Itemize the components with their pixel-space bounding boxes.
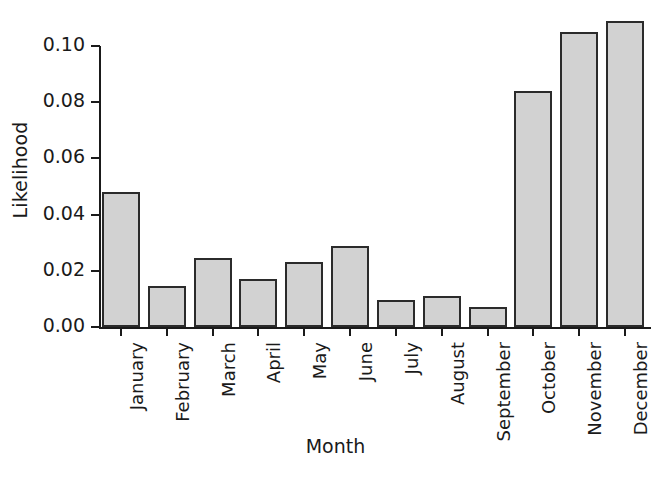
y-axis-tick-label: 0.06 — [43, 146, 85, 166]
bar — [469, 307, 507, 327]
bar — [606, 21, 644, 327]
x-axis-category-label: October — [540, 342, 558, 414]
x-axis-category-label: June — [357, 342, 375, 381]
bar — [285, 262, 323, 327]
x-axis-tick — [624, 328, 626, 336]
y-axis-label-container: Likelihood — [0, 0, 40, 340]
plot-area: 0.000.020.040.060.080.10 JanuaryFebruary… — [100, 46, 650, 327]
x-axis-category-label: January — [128, 342, 146, 410]
bar — [560, 32, 598, 327]
x-axis-tick — [303, 328, 305, 336]
x-axis-category-label: August — [449, 342, 467, 405]
x-axis-category-label: April — [265, 342, 283, 383]
x-axis-category-label: July — [403, 342, 421, 374]
y-axis-tick: 0.06 — [91, 157, 100, 159]
x-axis-tick — [120, 328, 122, 336]
x-axis-category-label: March — [220, 342, 238, 397]
y-axis-tick-label: 0.02 — [43, 259, 85, 279]
x-axis-category-label: November — [586, 342, 604, 436]
x-axis-tick — [532, 328, 534, 336]
bar — [194, 258, 232, 327]
y-axis-tick: 0.08 — [91, 101, 100, 103]
x-axis-tick — [395, 328, 397, 336]
x-axis-category-label: May — [311, 342, 329, 379]
x-axis-tick — [487, 328, 489, 336]
x-axis-category-label: December — [632, 342, 650, 435]
y-axis-tick: 0.00 — [91, 326, 100, 328]
x-axis-tick — [212, 328, 214, 336]
y-axis-spine — [99, 46, 101, 328]
x-axis-category-label: February — [174, 342, 192, 422]
x-axis-spine — [99, 327, 651, 329]
y-axis-label: Likelihood — [9, 122, 31, 219]
bar — [239, 279, 277, 327]
x-axis-tick — [441, 328, 443, 336]
y-axis-tick: 0.02 — [91, 270, 100, 272]
x-axis-category-label: September — [495, 342, 513, 442]
bar — [148, 286, 186, 327]
bar — [514, 91, 552, 327]
x-axis-tick — [349, 328, 351, 336]
x-axis-tick — [166, 328, 168, 336]
y-axis-tick-label: 0.10 — [43, 34, 85, 54]
bar — [377, 300, 415, 327]
y-axis-tick-label: 0.04 — [43, 203, 85, 223]
x-axis-tick — [578, 328, 580, 336]
bar — [331, 246, 369, 327]
y-axis-tick-label: 0.00 — [43, 315, 85, 335]
x-axis-tick — [257, 328, 259, 336]
y-axis-tick: 0.04 — [91, 214, 100, 216]
bar-chart: Likelihood 0.000.020.040.060.080.10 Janu… — [0, 0, 671, 482]
bar — [102, 192, 140, 327]
y-axis-tick-label: 0.08 — [43, 90, 85, 110]
x-axis-label: Month — [0, 435, 671, 457]
y-axis-tick: 0.10 — [91, 45, 100, 47]
bar — [423, 296, 461, 327]
